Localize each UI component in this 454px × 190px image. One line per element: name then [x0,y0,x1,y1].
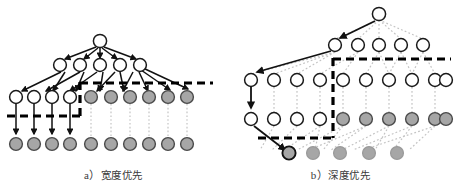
frontier-dashed-line [258,58,451,138]
caption-a-label: a） [84,169,101,181]
level2-nodes-open [245,74,453,87]
breadth-first-diagram [0,0,227,168]
depth-first-diagram [227,0,454,168]
level1-nodes [54,59,147,72]
node-root [372,7,385,20]
caption-b-label: b） [311,169,329,181]
node-current-goal [282,146,295,159]
edges-level1-to-level2-dotted [251,52,435,74]
node-root [93,34,106,47]
caption-b-text: 深度优先 [328,169,370,181]
figure-container: a）宽度优先 [0,0,454,190]
panel-breadth-first: a）宽度优先 [0,0,227,190]
caption-panel-a: a）宽度优先 [0,166,227,182]
edges-level1-to-level2-right [141,68,188,90]
caption-a-text: 宽度优先 [101,169,143,181]
edges-root-to-level1-dotted [335,20,423,39]
level4-nodes-closed [307,147,404,160]
panel-depth-first: b）深度优先 [227,0,454,190]
level3-nodes-closed [337,113,453,126]
level1-nodes [329,39,430,52]
edges-level2-to-level3-solid [16,104,70,134]
edges-level2-to-level3-dotted [91,104,187,136]
level2-nodes-open [10,91,77,104]
level3-nodes-closed [10,138,194,151]
caption-panel-b: b）深度优先 [227,166,454,182]
level2-nodes-closed [85,91,194,104]
edges-level2-to-level3-dotted [274,87,435,113]
level3-nodes-open [245,113,327,126]
edges-root-to-level1 [65,47,136,59]
